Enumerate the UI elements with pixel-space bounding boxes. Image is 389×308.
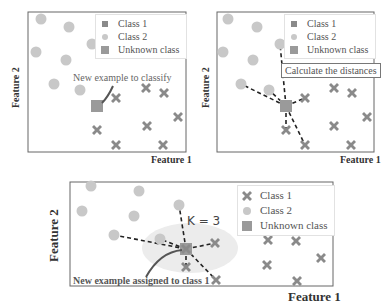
legend-label: Class 1 — [118, 17, 147, 30]
arrow-icon — [102, 86, 113, 103]
k-value-label: K = 3 — [187, 214, 220, 228]
annotation-panel-2: Calculate the distances — [281, 63, 381, 78]
legend-item-class2: Class 2 — [100, 30, 182, 43]
legend-item-class2: Class 2 — [289, 30, 371, 43]
class2-points — [218, 14, 286, 96]
legend-item-class2: Class 2 — [242, 203, 330, 218]
unknown-point — [91, 100, 103, 112]
legend-item-unknown: Unknown class — [289, 43, 371, 56]
legend-panel-2: Class 1 Class 2 Unknown class — [284, 14, 376, 59]
unknown-square-icon — [242, 221, 252, 231]
legend-item-class1: Class 1 — [242, 188, 330, 203]
legend-item-unknown: Unknown class — [242, 218, 330, 233]
class2-swatch-icon — [289, 32, 299, 42]
ylabel-panel-3: Feature 2 — [46, 209, 62, 262]
legend-label: Class 2 — [260, 203, 292, 218]
legend-label: Class 1 — [307, 17, 336, 30]
annotation-panel-1: New example to classify — [73, 72, 172, 83]
legend-label: Class 2 — [118, 30, 147, 43]
class1-cross-icon — [242, 191, 252, 201]
class1-points — [281, 83, 372, 150]
legend-item-class1: Class 1 — [100, 17, 182, 30]
legend-panel-1: Class 1 Class 2 Unknown class — [95, 14, 187, 59]
unknown-point — [280, 100, 292, 112]
unknown-swatch-icon — [289, 45, 299, 55]
legend-item-unknown: Unknown class — [100, 43, 182, 56]
legend-label: Unknown class — [118, 43, 179, 56]
ylabel-panel-2: Feature 2 — [200, 67, 211, 108]
ylabel-panel-1: Feature 2 — [10, 67, 21, 108]
xlabel-panel-3: Feature 1 — [288, 289, 341, 305]
xlabel-panel-1: Feature 1 — [151, 154, 192, 165]
legend-label: Class 2 — [307, 30, 336, 43]
class2-points — [31, 14, 98, 96]
unknown-swatch-icon — [100, 45, 110, 55]
legend-item-class1: Class 1 — [289, 17, 371, 30]
class2-swatch-icon — [100, 32, 110, 42]
legend-label: Unknown class — [307, 43, 368, 56]
legend-label: Class 1 — [260, 188, 292, 203]
xlabel-panel-2: Feature 1 — [340, 154, 381, 165]
class1-swatch-icon — [289, 19, 299, 29]
legend-label: Unknown class — [260, 218, 328, 233]
class2-circle-icon — [242, 206, 252, 216]
class1-points — [92, 83, 183, 150]
annotation-panel-3: New example assigned to class 1 — [73, 275, 209, 286]
class1-swatch-icon — [100, 19, 110, 29]
legend-panel-3: Class 1 Class 2 Unknown class — [237, 185, 335, 236]
